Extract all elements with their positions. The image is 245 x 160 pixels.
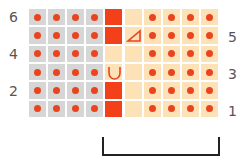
knit-dot-icon (168, 32, 175, 39)
knit-dot-icon (206, 105, 213, 112)
chart-cell (104, 8, 123, 26)
chart-cell (47, 81, 66, 99)
row-label-4: 4 (9, 47, 18, 61)
knit-dot-icon (53, 32, 60, 39)
knit-dot-icon (168, 14, 175, 21)
chart-cell (162, 45, 181, 63)
chart-cell (28, 8, 47, 26)
knit-dot-icon (91, 14, 98, 21)
chart-cell (143, 26, 162, 44)
chart-cell (162, 8, 181, 26)
chart-cell (200, 26, 219, 44)
chart-cell (47, 45, 66, 63)
knit-dot-icon (149, 14, 156, 21)
knit-dot-icon (34, 32, 41, 39)
chart-cell (143, 81, 162, 99)
knit-dot-icon (91, 32, 98, 39)
chart-cell (28, 100, 47, 118)
knit-dot-icon (34, 14, 41, 21)
chart-cell (124, 26, 143, 44)
knit-dot-icon (72, 32, 79, 39)
chart-cell (85, 81, 104, 99)
chart-cell (66, 63, 85, 81)
chart-cell (181, 45, 200, 63)
knit-dot-icon (72, 50, 79, 57)
chart-cell (85, 45, 104, 63)
chart-cell (104, 63, 123, 81)
chart-cell (124, 81, 143, 99)
knit-dot-icon (53, 14, 60, 21)
knit-dot-icon (187, 50, 194, 57)
knitting-chart-grid (28, 8, 219, 118)
knit-dot-icon (72, 87, 79, 94)
knit-dot-icon (149, 32, 156, 39)
knit-dot-icon (34, 50, 41, 57)
chart-cell (181, 81, 200, 99)
chart-cell (66, 26, 85, 44)
knit-dot-icon (53, 105, 60, 112)
chart-cell (200, 63, 219, 81)
knit-dot-icon (187, 69, 194, 76)
chart-cell (124, 45, 143, 63)
chart-cell (47, 100, 66, 118)
chart-cell (162, 100, 181, 118)
chart-cell (47, 8, 66, 26)
chart-cell (200, 45, 219, 63)
chart-cell (162, 26, 181, 44)
chart-cell (200, 8, 219, 26)
chart-cell (162, 63, 181, 81)
decrease-triangle-icon (125, 27, 144, 45)
row-label-3: 3 (228, 67, 237, 81)
chart-cell (47, 63, 66, 81)
knit-dot-icon (91, 50, 98, 57)
knit-dot-icon (168, 69, 175, 76)
chart-cell (66, 81, 85, 99)
knit-dot-icon (149, 69, 156, 76)
knit-dot-icon (168, 105, 175, 112)
knit-dot-icon (53, 50, 60, 57)
knit-dot-icon (149, 105, 156, 112)
knit-dot-icon (168, 50, 175, 57)
knit-dot-icon (206, 14, 213, 21)
knit-dot-icon (72, 69, 79, 76)
knit-dot-icon (206, 50, 213, 57)
knit-dot-icon (206, 87, 213, 94)
knit-dot-icon (206, 32, 213, 39)
knit-dot-icon (72, 105, 79, 112)
row-label-5: 5 (228, 30, 237, 44)
knit-dot-icon (187, 87, 194, 94)
knit-dot-icon (72, 14, 79, 21)
chart-cell (124, 8, 143, 26)
row-label-6: 6 (9, 10, 18, 24)
chart-cell (66, 8, 85, 26)
chart-cell (66, 45, 85, 63)
repeat-bracket (102, 137, 220, 156)
chart-cell (200, 81, 219, 99)
chart-cell (85, 8, 104, 26)
row-label-1: 1 (228, 104, 237, 118)
knit-dot-icon (187, 14, 194, 21)
knit-dot-icon (187, 32, 194, 39)
knit-dot-icon (34, 87, 41, 94)
knit-dot-icon (168, 87, 175, 94)
chart-cell (200, 100, 219, 118)
chart-cell (28, 26, 47, 44)
chart-cell (66, 100, 85, 118)
chart-cell (181, 100, 200, 118)
knit-dot-icon (53, 69, 60, 76)
chart-cell (124, 100, 143, 118)
chart-cell (181, 8, 200, 26)
knit-dot-icon (149, 87, 156, 94)
chart-cell (143, 45, 162, 63)
chart-cell (85, 26, 104, 44)
knit-dot-icon (91, 105, 98, 112)
row-label-2: 2 (9, 84, 18, 98)
chart-cell (143, 8, 162, 26)
chart-cell (162, 81, 181, 99)
knit-dot-icon (149, 50, 156, 57)
knit-dot-icon (187, 105, 194, 112)
chart-cell (104, 81, 123, 99)
chart-cell (124, 63, 143, 81)
knit-dot-icon (206, 69, 213, 76)
knit-dot-icon (53, 87, 60, 94)
